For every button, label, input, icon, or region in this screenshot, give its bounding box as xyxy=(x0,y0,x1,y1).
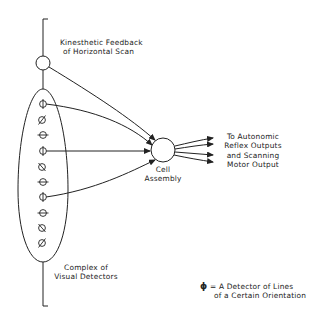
label-line: Kinesthetic Feedback xyxy=(60,38,143,47)
label-line: Assembly xyxy=(143,174,183,183)
top-bracket-line xyxy=(43,19,48,58)
output-arrow-4 xyxy=(174,155,213,162)
label-line: Motor Output xyxy=(222,160,284,169)
label-line: and Scanning xyxy=(222,151,284,160)
legend-text: of a Certain Orientation xyxy=(200,291,306,300)
cell-assembly-node xyxy=(151,138,175,162)
detector-symbol-icon: ϕ xyxy=(200,281,207,291)
label-line: Complex of xyxy=(52,263,120,272)
bottom-bracket-line xyxy=(43,262,48,306)
detector-diagonal-left-icon xyxy=(39,224,46,232)
kinesthetic-node xyxy=(36,56,50,70)
outputs-label: To Autonomic Reflex Outputs and Scanning… xyxy=(222,132,284,170)
legend-text: = A Detector of Lines xyxy=(210,282,293,291)
output-arrow-3 xyxy=(175,152,213,155)
detector-complex-ellipse xyxy=(18,89,68,262)
kinesthetic-label: Kinesthetic Feedback of Horizontal Scan xyxy=(60,38,143,57)
legend: ϕ = A Detector of Lines of a Certain Ori… xyxy=(200,282,306,301)
detector-complex-label: Complex of Visual Detectors xyxy=(52,263,120,282)
kinesthetic-connection xyxy=(49,67,155,140)
legend-line: ϕ = A Detector of Lines xyxy=(200,282,306,291)
cell-assembly-label: Cell Assembly xyxy=(143,165,183,184)
detector-diagonal-left-icon xyxy=(39,163,46,171)
label-line: Reflex Outputs xyxy=(222,141,284,150)
label-line: Cell xyxy=(143,165,183,174)
label-line: Visual Detectors xyxy=(52,272,120,281)
label-line: To Autonomic xyxy=(222,132,284,141)
label-line: of Horizontal Scan xyxy=(60,47,143,56)
